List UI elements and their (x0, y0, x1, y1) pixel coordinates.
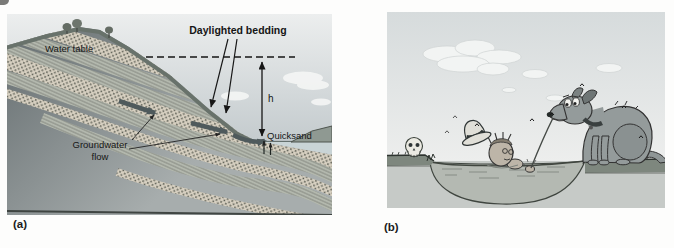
dog-front-leg (601, 136, 609, 162)
daylighted-bedding-label: Daylighted bedding (189, 24, 286, 36)
panel-a-diagram: h Daylighted bedding Water table Groundw… (7, 14, 332, 215)
panel-a-caption: (a) (13, 218, 27, 230)
quicksand-label: Quicksand (267, 130, 312, 141)
water-table-label: Water table (45, 43, 93, 54)
height-label: h (268, 93, 274, 104)
collar-tag (589, 126, 593, 130)
panel-b-cartoon (387, 12, 665, 208)
dog-front-leg (591, 136, 599, 162)
groundwater-flow-label-line2: flow (92, 151, 109, 162)
figure-page: h Daylighted bedding Water table Groundw… (0, 0, 674, 248)
dog-haunch (613, 124, 647, 160)
scan-artifact (0, 0, 9, 5)
panel-b-caption: (b) (384, 221, 399, 233)
panel-b-svg (387, 12, 665, 208)
groundwater-flow-label-line1: Groundwater (73, 139, 128, 150)
panel-a-svg: h Daylighted bedding Water table Groundw… (7, 14, 332, 215)
